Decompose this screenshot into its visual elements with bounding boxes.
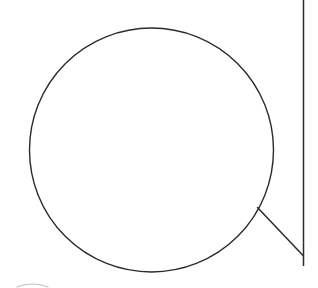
canvas-background: [0, 0, 318, 288]
drawing-svg: [0, 0, 318, 288]
drawing-canvas: [0, 0, 318, 288]
